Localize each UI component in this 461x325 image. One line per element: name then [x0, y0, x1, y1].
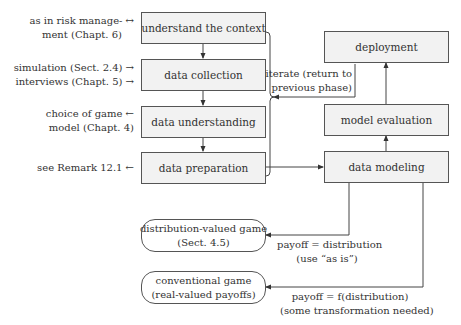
annotation-line: model (Chapt. 4) [46, 121, 134, 135]
edge-label-line: (some transformation needed) [280, 304, 420, 318]
outcome-line: (Sect. 4.5) [177, 236, 229, 250]
annotation-line: interviews (Chapt. 5) → [14, 75, 134, 89]
annotation-line: previous phase) [266, 81, 353, 95]
phase-data-modeling: data modeling [324, 151, 449, 183]
phase-label: understand the context [141, 22, 265, 34]
outcome-line: distribution-valued game [140, 222, 267, 236]
edge-label-line: payoff = distribution [277, 238, 377, 252]
phase-label: deployment [355, 41, 417, 53]
annotation-line: ment (Chapt. 6) [29, 28, 134, 42]
phase-deployment: deployment [324, 31, 449, 63]
annotation-line: iterate (return to [266, 67, 353, 81]
phase-data-understanding: data understanding [141, 106, 266, 138]
annotation-iterate: iterate (return to previous phase) [266, 67, 353, 95]
annotation-line: simulation (Sect. 2.4) → [14, 61, 134, 75]
phase-label: data modeling [348, 161, 424, 173]
outcome-line: conventional game [156, 274, 252, 288]
edge-label-distribution: payoff = distribution (use “as is”) [277, 238, 377, 266]
outcome-distribution-valued-game: distribution-valued game (Sect. 4.5) [141, 219, 266, 252]
edge-label-conventional: payoff = f(distribution) (some transform… [280, 290, 420, 318]
outcome-line: (real-valued payoffs) [151, 288, 255, 302]
annotation-line: as in risk manage- ↔ [29, 14, 134, 28]
phase-label: model evaluation [341, 114, 432, 126]
edge-label-line: payoff = f(distribution) [280, 290, 420, 304]
annotation-preparation: see Remark 12.1 ← [37, 161, 134, 175]
outcome-conventional-game: conventional game (real-valued payoffs) [141, 271, 266, 304]
phase-data-collection: data collection [141, 59, 266, 91]
annotation-context: as in risk manage- ↔ ment (Chapt. 6) [29, 14, 134, 42]
annotation-understanding: choice of game ← model (Chapt. 4) [46, 107, 134, 135]
phase-data-preparation: data preparation [141, 152, 266, 184]
edge-label-line: (use “as is”) [277, 252, 377, 266]
phase-label: data understanding [151, 116, 255, 128]
phase-label: data collection [164, 69, 242, 81]
annotation-line: see Remark 12.1 ← [37, 161, 134, 175]
annotation-collection: simulation (Sect. 2.4) → interviews (Cha… [14, 61, 134, 89]
phase-model-evaluation: model evaluation [324, 104, 449, 136]
phase-understand-context: understand the context [141, 12, 266, 44]
annotation-line: choice of game ← [46, 107, 134, 121]
phase-label: data preparation [159, 162, 249, 174]
